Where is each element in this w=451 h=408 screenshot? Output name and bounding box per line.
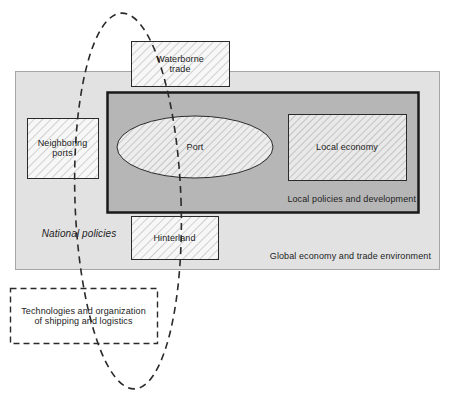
box-waterborne-trade bbox=[132, 42, 230, 87]
ellipse-port bbox=[117, 116, 273, 178]
box-local-economy bbox=[289, 115, 407, 181]
box-hinterland bbox=[132, 217, 219, 260]
diagram-svg bbox=[0, 0, 451, 408]
box-neighboring-ports bbox=[28, 119, 99, 179]
box-technologies-shipping-logistics bbox=[11, 289, 158, 344]
diagram-canvas: Waterborne trade Neighboring ports Port … bbox=[0, 0, 451, 408]
